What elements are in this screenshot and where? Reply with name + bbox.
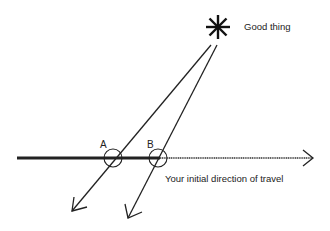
point-a-label: A — [100, 139, 107, 150]
diagram-canvas: Good thing Your initial direction of tra… — [0, 0, 330, 231]
point-b-label: B — [147, 139, 154, 150]
good-thing-label: Good thing — [244, 21, 290, 32]
asterisk-star-icon — [206, 15, 230, 39]
sightline-a — [72, 45, 211, 211]
diagram-graphic — [0, 0, 330, 231]
sightline-b — [128, 45, 217, 218]
direction-label: Your initial direction of travel — [165, 173, 283, 184]
